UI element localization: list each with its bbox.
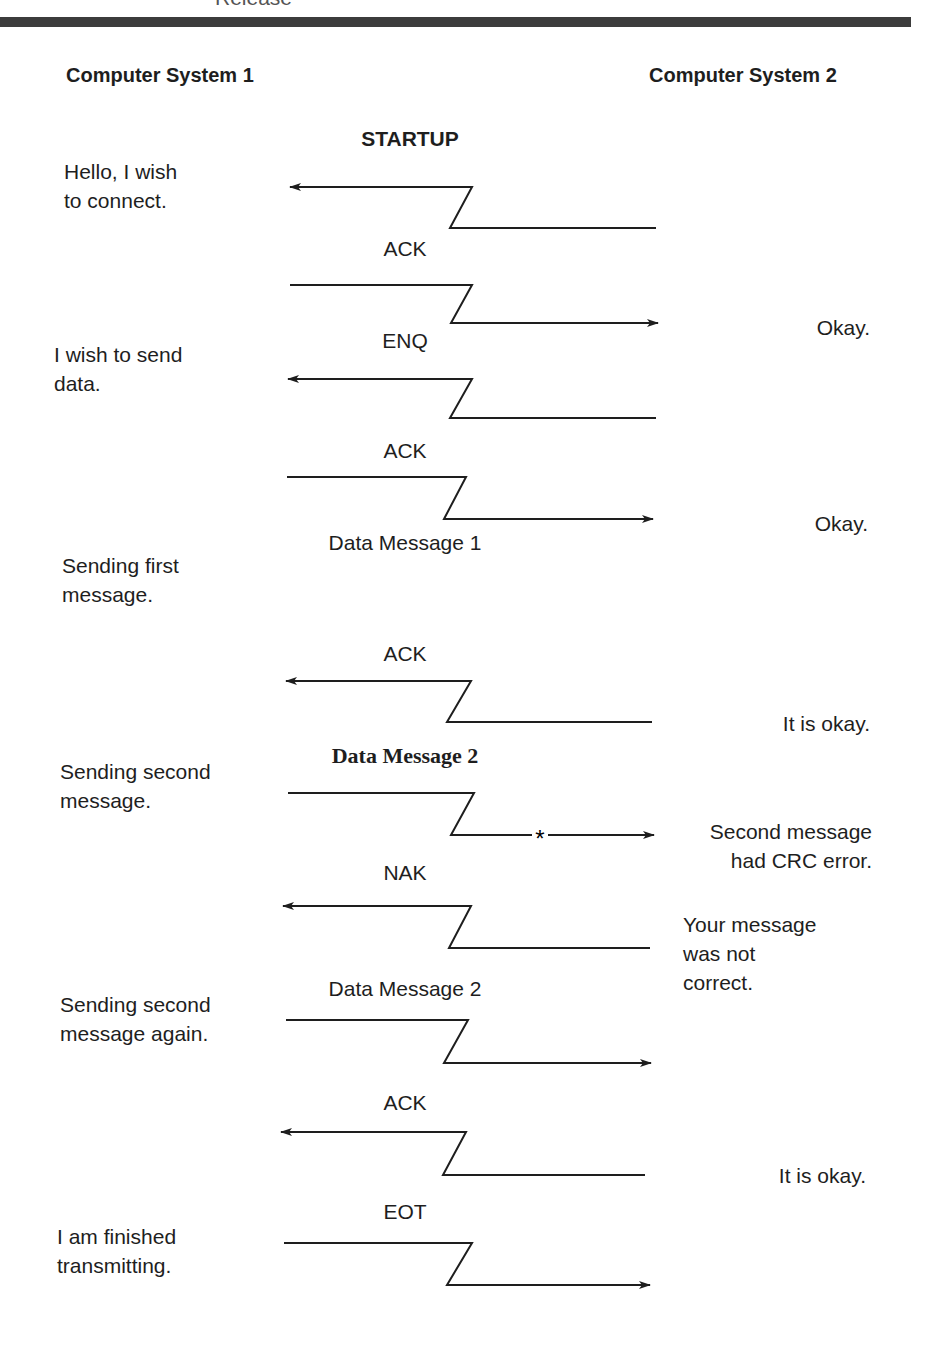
arrow-to-system-1 bbox=[283, 906, 650, 948]
crc-error-marker-icon: * bbox=[535, 825, 544, 852]
arrow-to-system-1 bbox=[281, 1132, 645, 1175]
arrow-to-system-2 bbox=[287, 477, 653, 519]
arrow-to-system-2 bbox=[284, 1243, 650, 1285]
arrow-to-system-1 bbox=[290, 187, 656, 228]
message-flow-arrows: * bbox=[0, 0, 928, 1367]
arrow-to-system-1 bbox=[286, 681, 652, 722]
arrow-to-system-2 bbox=[286, 1020, 651, 1063]
arrow-to-system-1 bbox=[288, 379, 656, 418]
arrow-to-system-2 bbox=[290, 285, 658, 323]
